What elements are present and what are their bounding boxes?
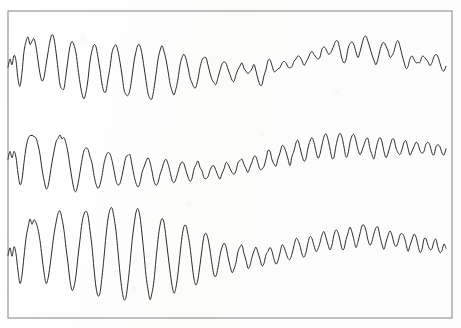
- waveform-trace-2: [8, 133, 446, 192]
- waveform-trace-1: [8, 35, 446, 100]
- waveform-plot: [0, 0, 461, 328]
- waveform-trace-3: [8, 207, 446, 300]
- trace-group: [8, 35, 446, 301]
- figure-container: [0, 0, 461, 328]
- plot-frame-border: [8, 11, 452, 318]
